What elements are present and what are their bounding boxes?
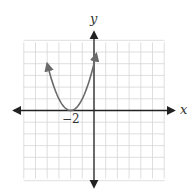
- tick-label-neg2: −2: [62, 112, 80, 126]
- parabola-curve: [47, 54, 96, 111]
- x-axis-label: x: [180, 102, 188, 117]
- parabola-graph: y x −2: [0, 0, 194, 196]
- y-axis-label: y: [89, 11, 98, 26]
